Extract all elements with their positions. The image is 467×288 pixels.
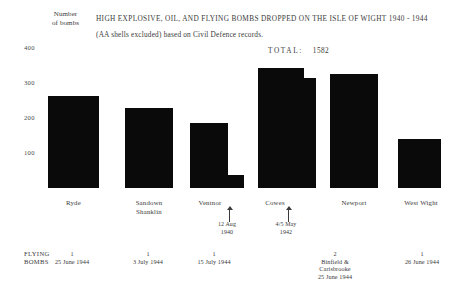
bomb-statistics-chart: Number of bombs HIGH EXPLOSIVE, OIL, AND… [0, 0, 467, 288]
flying-bomb-count: 1 [186, 250, 242, 258]
event-date-line1: 4/5 May [276, 221, 297, 227]
arrow-head [286, 206, 292, 210]
flying-bomb-entry-ryde: 125 June 1944 [44, 250, 100, 265]
flying-bomb-count: 1 [44, 250, 100, 258]
bar-sandown-shanklin [125, 108, 173, 188]
bar-newport [330, 74, 378, 188]
flying-bomb-count: 1 [392, 250, 452, 258]
event-date-line2: 1940 [221, 229, 233, 235]
y-axis-tick-200: 200 [24, 114, 50, 121]
bar-step-cowes [304, 78, 316, 188]
arrow-head [227, 206, 233, 210]
category-label-sandown-shanklin-line1: Sandown [136, 199, 163, 206]
bar-west-wight [398, 139, 441, 188]
flying-bomb-entry-ventnor: 115 July 1944 [186, 250, 242, 265]
bar-step-ventnor [228, 175, 244, 188]
event-date-line1: 12 Aug [218, 221, 236, 227]
event-date-line2: 1942 [280, 229, 292, 235]
flying-bomb-count: 1 [120, 250, 176, 258]
arrow-up-icon-cowes-raid [284, 206, 293, 222]
y-axis-tick-300: 300 [24, 79, 50, 86]
flying-bomb-entry-sandown-shanklin: 13 July 1944 [120, 250, 176, 265]
flying-bomb-date: 25 June 1944 [44, 258, 100, 266]
category-label-west-wight: West Wight [394, 199, 448, 208]
category-label-sandown-shanklin-line2: Shanklin [136, 208, 162, 215]
plot-area: 400300200100RydeSandownShanklinVentnorCo… [0, 0, 467, 288]
flying-bomb-date: 25 June 1944 [300, 273, 370, 281]
flying-bomb-entry-west-wight: 126 June 1944 [392, 250, 452, 265]
category-label-newport: Newport [328, 199, 380, 208]
flying-bomb-date: 3 July 1944 [120, 258, 176, 266]
category-label-ryde: Ryde [48, 199, 99, 208]
event-date-cowes-raid: 4/5 May1942 [265, 221, 307, 236]
flying-bomb-entry-newport: 2Binfield &Carisbrooke25 June 1944 [300, 250, 370, 280]
bar-ryde [48, 96, 99, 188]
y-axis-tick-400: 400 [24, 44, 50, 51]
bar-cowes [258, 68, 304, 188]
flying-bomb-date: 15 July 1944 [186, 258, 242, 266]
y-axis-tick-100: 100 [24, 149, 50, 156]
flying-bomb-count: 2 [300, 250, 370, 258]
category-label-sandown-shanklin: SandownShanklin [121, 199, 177, 216]
flying-bomb-date: 26 June 1944 [392, 258, 452, 266]
flying-bomb-place: Binfield & [300, 258, 370, 266]
arrow-up-icon-ventnor-raid [225, 206, 234, 222]
bar-ventnor [190, 123, 228, 188]
flying-bomb-place: Carisbrooke [300, 265, 370, 273]
event-date-ventnor-raid: 12 Aug1940 [206, 221, 248, 236]
